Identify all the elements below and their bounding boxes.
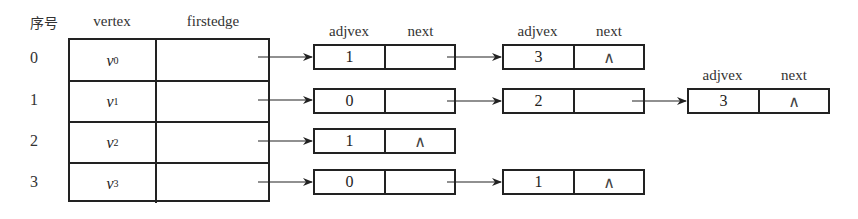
pointer-arrows xyxy=(0,0,858,219)
